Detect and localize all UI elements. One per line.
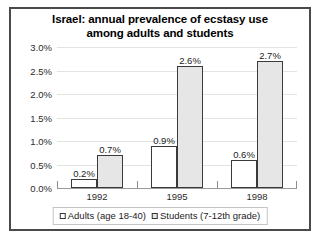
bar-value-label: 0.6% — [233, 149, 255, 160]
x-axis-tick-mark — [57, 181, 58, 188]
y-axis-tick-label: 1.0% — [30, 136, 52, 147]
bar-value-label: 2.6% — [179, 55, 201, 66]
bar-students-1992: 0.7% — [97, 155, 123, 188]
x-axis-category-label: 1992 — [86, 191, 107, 202]
y-axis-tick-label: 3.0% — [30, 42, 52, 53]
legend-entry-adults: Adults (age 18-40) — [60, 210, 146, 221]
x-axis-tick-mark — [137, 181, 138, 188]
x-axis-category-label: 1998 — [246, 191, 267, 202]
y-axis-tick-label: 1.5% — [30, 112, 52, 123]
bar-value-label: 0.9% — [153, 135, 175, 146]
y-axis-tick-label: 0.5% — [30, 159, 52, 170]
legend-label-adults: Adults (age 18-40) — [68, 210, 146, 221]
x-axis-tick-mark — [217, 181, 218, 188]
y-axis-tick-label: 0.0% — [30, 183, 52, 194]
bar-value-label: 0.7% — [99, 144, 121, 155]
bar-adults-1995: 0.9% — [151, 146, 177, 188]
chart-title: Israel: annual prevalence of ecstasy use… — [11, 13, 309, 40]
y-axis-tick-label: 2.0% — [30, 89, 52, 100]
bar-value-label: 2.7% — [259, 50, 281, 61]
bar-students-1998: 2.7% — [257, 61, 283, 188]
chart-legend: Adults (age 18-40) Students (7-12th grad… — [53, 207, 268, 225]
bar-students-1995: 2.6% — [177, 66, 203, 188]
x-axis-tick-mark — [296, 181, 297, 188]
y-axis-tick-label: 2.5% — [30, 65, 52, 76]
plot-area: 0.0%0.5%1.0%1.5%2.0%2.5%3.0%0.2%0.7%0.9%… — [57, 47, 297, 188]
bar-adults-1998: 0.6% — [231, 160, 257, 188]
legend-swatch-students-icon — [152, 213, 158, 219]
legend-label-students: Students (7-12th grade) — [160, 210, 260, 221]
chart-frame: Israel: annual prevalence of ecstasy use… — [9, 7, 311, 231]
x-axis-labels: 199219951998 — [57, 191, 297, 205]
bar-value-label: 0.2% — [73, 168, 95, 179]
x-axis-category-label: 1995 — [166, 191, 187, 202]
bar-adults-1992: 0.2% — [71, 179, 97, 188]
chart-title-line-2: among adults and students — [11, 27, 309, 41]
axis-baseline: 0.0% — [57, 188, 297, 189]
chart-title-line-1: Israel: annual prevalence of ecstasy use — [11, 13, 309, 27]
legend-swatch-adults-icon — [60, 213, 66, 219]
gridline: 3.0% — [57, 47, 297, 48]
legend-entry-students: Students (7-12th grade) — [152, 210, 260, 221]
